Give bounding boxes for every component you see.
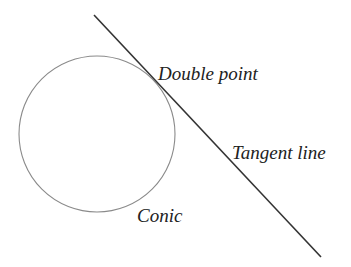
conic-label: Conic [137,205,183,226]
tangent-line [94,15,321,257]
tangent-line-label: Tangent line [232,142,326,163]
double-point-label: Double point [157,63,258,84]
diagram-canvas: Double point Tangent line Conic [0,0,351,267]
conic-circle [19,56,175,212]
